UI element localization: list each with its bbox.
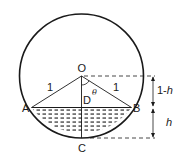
dimension-lower: [151, 109, 155, 138]
label-d: D: [83, 94, 91, 106]
angle-arc-theta: [82, 81, 90, 85]
label-h: h: [166, 116, 172, 128]
label-radius-ob: 1: [113, 81, 119, 93]
label-a: A: [22, 102, 30, 114]
label-one-minus-h: 1-h: [157, 84, 173, 96]
dimension-upper: [151, 77, 155, 107]
label-c: C: [78, 142, 86, 154]
label-b: B: [133, 102, 140, 114]
label-theta: θ: [92, 88, 97, 97]
label-o: O: [78, 62, 87, 74]
radius-oa: [32, 76, 82, 108]
label-radius-oa: 1: [47, 81, 53, 93]
circle-segment-diagram: O A B C D 1 1 θ 1-h h: [0, 0, 183, 160]
